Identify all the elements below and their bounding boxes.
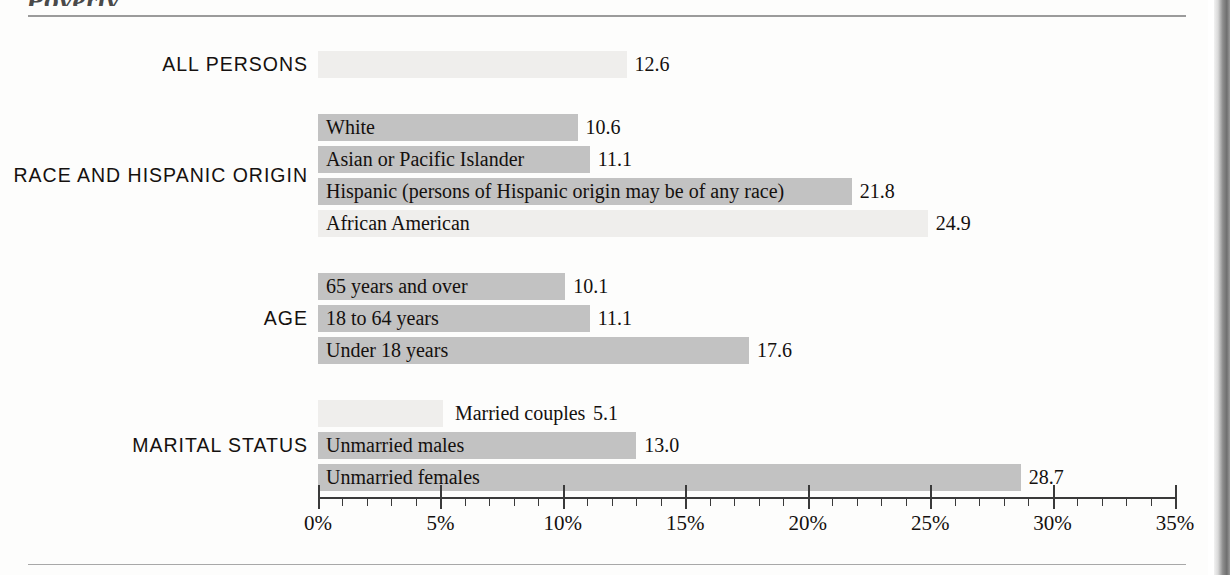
bar-value-label: 24.9 xyxy=(936,210,971,237)
x-axis-minor-tick xyxy=(416,497,417,506)
bar-value-label: 21.8 xyxy=(860,178,895,205)
bar-label: Unmarried females xyxy=(326,464,480,491)
group-label-all-persons: ALL PERSONS xyxy=(8,53,308,76)
x-axis-minor-tick xyxy=(1126,497,1127,506)
bar-label: Married couples xyxy=(455,400,586,427)
x-axis-major-tick xyxy=(318,485,320,509)
x-axis-line xyxy=(318,497,1175,499)
x-axis-minor-tick xyxy=(538,497,539,506)
x-axis-major-tick xyxy=(930,485,932,509)
x-axis-tick-label: 0% xyxy=(273,511,363,536)
poverty-chart-figure: Poverty 12.6White10.6Asian or Pacific Is… xyxy=(0,0,1230,575)
x-axis-major-tick xyxy=(440,485,442,509)
bar-row: Hispanic (persons of Hispanic origin may… xyxy=(318,178,1175,205)
bar-row: 12.6 xyxy=(318,51,1175,78)
bottom-divider-rule xyxy=(28,564,1186,565)
x-axis-minor-tick xyxy=(514,497,515,506)
bar-value-label: 10.6 xyxy=(586,114,621,141)
bar-value-label: 13.0 xyxy=(644,432,679,459)
bar-label: Under 18 years xyxy=(326,337,448,364)
bar xyxy=(318,400,443,427)
x-axis-minor-tick xyxy=(1077,497,1078,506)
group-label-race-and-hispanic-origin: RACE AND HISPANIC ORIGIN xyxy=(8,164,308,187)
x-axis-minor-tick xyxy=(636,497,637,506)
x-axis-minor-tick xyxy=(342,497,343,506)
bar-value-label: 12.6 xyxy=(635,51,670,78)
x-axis-minor-tick xyxy=(881,497,882,506)
page-edge-shadow xyxy=(1214,0,1230,575)
x-axis-tick-label: 35% xyxy=(1130,511,1220,536)
x-axis-tick-label: 20% xyxy=(763,511,853,536)
bar-value-label: 10.1 xyxy=(573,273,608,300)
x-axis-minor-tick xyxy=(710,497,711,506)
x-axis-minor-tick xyxy=(906,497,907,506)
x-axis-tick-label: 25% xyxy=(885,511,975,536)
x-axis-minor-tick xyxy=(1151,497,1152,506)
x-axis-major-tick xyxy=(685,485,687,509)
bar-row: Under 18 years17.6 xyxy=(318,337,1175,364)
x-axis-minor-tick xyxy=(587,497,588,506)
x-axis-tick-label: 5% xyxy=(395,511,485,536)
x-axis-minor-tick xyxy=(955,497,956,506)
bar-label: Hispanic (persons of Hispanic origin may… xyxy=(326,178,784,205)
x-axis-minor-tick xyxy=(391,497,392,506)
bar-row: Married couples5.1 xyxy=(318,400,1175,427)
x-axis-minor-tick xyxy=(734,497,735,506)
bar-row: 65 years and over10.1 xyxy=(318,273,1175,300)
bar-label: African American xyxy=(326,210,470,237)
x-axis-major-tick xyxy=(1053,485,1055,509)
bar-value-label: 28.7 xyxy=(1029,464,1064,491)
x-axis-minor-tick xyxy=(465,497,466,506)
x-axis-major-tick xyxy=(563,485,565,509)
bar-value-label: 17.6 xyxy=(757,337,792,364)
x-axis-minor-tick xyxy=(612,497,613,506)
x-axis-minor-tick xyxy=(783,497,784,506)
x-axis-major-tick xyxy=(1175,485,1177,509)
bar-label: Asian or Pacific Islander xyxy=(326,146,524,173)
bar xyxy=(318,51,627,78)
bar-row: Asian or Pacific Islander11.1 xyxy=(318,146,1175,173)
x-axis-minor-tick xyxy=(1102,497,1103,506)
bar-label: 18 to 64 years xyxy=(326,305,439,332)
bar-row: White10.6 xyxy=(318,114,1175,141)
x-axis-tick-label: 15% xyxy=(640,511,730,536)
x-axis-minor-tick xyxy=(661,497,662,506)
x-axis-minor-tick xyxy=(832,497,833,506)
chart-plot-area: 12.6White10.6Asian or Pacific Islander11… xyxy=(0,0,1230,575)
x-axis-minor-tick xyxy=(1028,497,1029,506)
bar-value-label: 11.1 xyxy=(598,146,632,173)
x-axis-minor-tick xyxy=(979,497,980,506)
bar-label: Unmarried males xyxy=(326,432,464,459)
x-axis-tick-label: 30% xyxy=(1008,511,1098,536)
bar-label: 65 years and over xyxy=(326,273,468,300)
group-label-marital-status: MARITAL STATUS xyxy=(8,434,308,457)
bar-value-label: 11.1 xyxy=(598,305,632,332)
x-axis-minor-tick xyxy=(1004,497,1005,506)
bar-value-label: 5.1 xyxy=(593,400,618,427)
bar-label: White xyxy=(326,114,375,141)
x-axis-tick-label: 10% xyxy=(518,511,608,536)
x-axis-minor-tick xyxy=(489,497,490,506)
x-axis-minor-tick xyxy=(759,497,760,506)
bar-row: African American24.9 xyxy=(318,210,1175,237)
bar-row: Unmarried females28.7 xyxy=(318,464,1175,491)
x-axis-minor-tick xyxy=(367,497,368,506)
group-label-age: AGE xyxy=(8,307,308,330)
bar-row: Unmarried males13.0 xyxy=(318,432,1175,459)
x-axis-minor-tick xyxy=(857,497,858,506)
bar-row: 18 to 64 years11.1 xyxy=(318,305,1175,332)
x-axis-major-tick xyxy=(808,485,810,509)
